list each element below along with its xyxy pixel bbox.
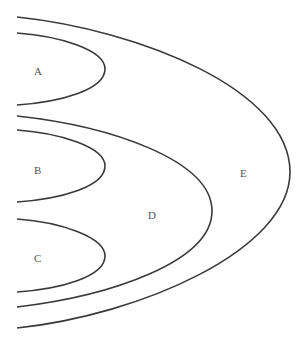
region-c-boundary [17,219,105,292]
region-e-boundary [17,17,290,328]
region-d-label: D [148,209,156,221]
region-e-label: E [240,167,247,179]
region-b-boundary [17,130,105,202]
region-b-label: B [34,164,41,176]
region-d-boundary [17,116,212,307]
region-a-boundary [17,33,105,105]
region-c-label: C [34,252,41,264]
region-a-label: A [34,65,42,77]
nested-sets-diagram: A B C D E [0,0,304,345]
